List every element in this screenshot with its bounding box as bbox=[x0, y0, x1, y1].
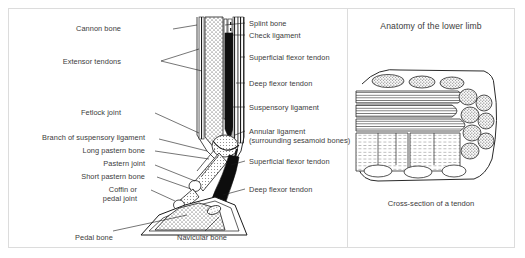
fascicle-end bbox=[364, 165, 392, 177]
lower-limb-panel: Cannon bone Extensor tendons Fetlock joi… bbox=[9, 9, 347, 247]
label-branch-of-suspensory-ligament: Branch of suspensory ligament bbox=[9, 133, 145, 142]
label-annular-ligament: Annular ligament bbox=[249, 127, 305, 136]
fascicle-cut-end bbox=[478, 133, 494, 149]
cannon-bone-shape bbox=[205, 17, 223, 149]
label-check-ligament: Check ligament bbox=[249, 31, 301, 40]
fascicle-end bbox=[372, 75, 404, 88]
label-pastern-joint: Pastern joint bbox=[9, 159, 145, 168]
suspensory-ligament-shape bbox=[225, 33, 233, 141]
label-superficial-flexor-tendon-upper: Superficial flexor tendon bbox=[249, 53, 330, 62]
fascicle-long bbox=[356, 119, 465, 131]
superficial-flexor-tendon-band bbox=[238, 17, 244, 143]
fascicle-cut-end bbox=[476, 95, 492, 111]
label-coffin-or-pedal-joint-line2: pedal joint bbox=[9, 194, 137, 203]
fetlock-joint-shape bbox=[212, 135, 238, 157]
tendon-cross-section-illustration bbox=[348, 9, 514, 247]
fascicle-long bbox=[356, 91, 463, 103]
label-fetlock-joint: Fetlock joint bbox=[21, 108, 121, 117]
fascicle-cut-end bbox=[459, 89, 477, 105]
fascicle-end bbox=[409, 76, 435, 88]
pastern-joint-shape bbox=[189, 181, 201, 192]
label-deep-flexor-tendon-lower: Deep flexor tendon bbox=[249, 185, 312, 194]
label-superficial-flexor-tendon-lower: Superficial flexor tendon bbox=[249, 157, 330, 166]
tendon-caption: Cross-section of a tendon bbox=[348, 199, 514, 208]
fascicle-cut-end bbox=[461, 143, 479, 159]
deep-flexor-tendon-band bbox=[233, 17, 238, 141]
extensor-tendon-band bbox=[199, 17, 204, 139]
label-suspensory-ligament: Suspensory ligament bbox=[249, 103, 319, 112]
label-long-pastern-bone: Long pastern bone bbox=[9, 146, 145, 155]
fascicle-end bbox=[404, 166, 432, 178]
fascicle-end bbox=[440, 77, 464, 89]
figure-root: Cannon bone Extensor tendons Fetlock joi… bbox=[0, 0, 525, 258]
label-pedal-bone: Pedal bone bbox=[75, 233, 113, 242]
label-splint-bone: Splint bone bbox=[249, 19, 287, 28]
hoof-group bbox=[141, 197, 247, 235]
label-navicular-bone: Navicular bone bbox=[177, 233, 227, 242]
label-coffin-or-pedal-joint: Coffin or bbox=[9, 185, 137, 194]
tendon-panel: Anatomy of the lower limb bbox=[348, 9, 514, 247]
label-cannon-bone: Cannon bone bbox=[21, 24, 121, 33]
label-extensor-tendons: Extensor tendons bbox=[11, 57, 121, 66]
fascicle-bundle-group bbox=[356, 75, 494, 179]
label-deep-flexor-tendon-upper: Deep flexor tendon bbox=[249, 79, 312, 88]
fascicle-cut-end bbox=[478, 113, 494, 129]
fascicle-long bbox=[356, 105, 457, 117]
label-annular-ligament-sub: (surrounding sesamoid bones) bbox=[249, 136, 350, 145]
fascicle-end bbox=[442, 165, 466, 177]
label-short-pastern-bone: Short pastern bone bbox=[9, 172, 145, 181]
fascicle-cut-end bbox=[461, 107, 479, 123]
